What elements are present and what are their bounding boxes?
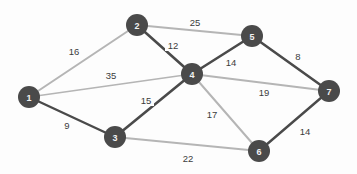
edge-weight-label-2-4: 12 bbox=[168, 40, 179, 51]
graph-edge-2-4 bbox=[137, 25, 192, 74]
edge-weight-label-1-3: 9 bbox=[64, 120, 69, 131]
edge-weight-label-2-5: 25 bbox=[190, 17, 201, 28]
graph-node-5[interactable] bbox=[241, 25, 263, 47]
edge-weight-label-1-2: 16 bbox=[69, 46, 80, 57]
edge-weight-label-6-7: 14 bbox=[300, 126, 311, 137]
graph-node-1[interactable] bbox=[18, 86, 40, 108]
edge-weight-label-5-7: 8 bbox=[295, 51, 300, 62]
edge-weight-label-1-4: 35 bbox=[106, 70, 117, 81]
graph-canvas: 1234567 1635925121522141917814 bbox=[0, 0, 357, 174]
graph-node-4[interactable] bbox=[181, 63, 203, 85]
edge-weight-labels-layer: 1635925121522141917814 bbox=[62, 16, 313, 164]
graph-node-2[interactable] bbox=[126, 14, 148, 36]
weighted-graph-diagram: 1234567 1635925121522141917814 bbox=[0, 0, 357, 174]
graph-node-7[interactable] bbox=[318, 80, 340, 102]
graph-edge-4-6 bbox=[192, 74, 259, 151]
graph-node-3[interactable] bbox=[104, 126, 126, 148]
graph-edge-3-6 bbox=[115, 137, 259, 151]
nodes-layer: 1234567 bbox=[18, 14, 340, 162]
edge-weight-label-3-6: 22 bbox=[183, 153, 194, 164]
edge-weight-label-4-5: 14 bbox=[226, 57, 237, 68]
edge-weight-label-3-4: 15 bbox=[141, 95, 152, 106]
edge-weight-label-4-7: 19 bbox=[259, 87, 270, 98]
graph-edge-6-7 bbox=[259, 91, 329, 151]
graph-node-6[interactable] bbox=[248, 140, 270, 162]
graph-edge-1-2 bbox=[29, 25, 137, 97]
edge-weight-label-4-6: 17 bbox=[207, 109, 218, 120]
